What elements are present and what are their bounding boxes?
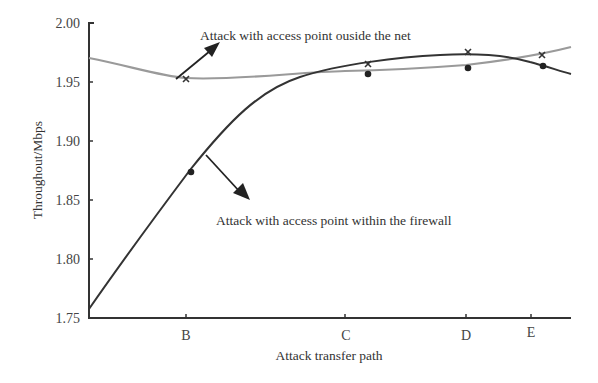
arrow-icon-bottom bbox=[206, 155, 250, 200]
marker-dot-C bbox=[365, 71, 372, 78]
series-outside-net-line bbox=[89, 47, 571, 79]
series-within-firewall-line bbox=[89, 54, 571, 309]
y-tick-1.90: 1.90 bbox=[56, 134, 81, 149]
x-tick-C: C bbox=[341, 328, 350, 343]
y-tick-1.95: 1.95 bbox=[56, 75, 81, 90]
y-axis-title: Throughout/Mbps bbox=[30, 121, 45, 219]
y-axis bbox=[89, 22, 94, 318]
throughput-chart: 2.00 1.95 1.90 1.85 1.80 1.75 B C D E At… bbox=[0, 0, 598, 383]
x-axis bbox=[88, 314, 571, 318]
y-tick-2.00: 2.00 bbox=[56, 16, 81, 31]
y-tick-1.75: 1.75 bbox=[56, 311, 81, 326]
x-tick-D: D bbox=[461, 328, 471, 343]
y-tick-1.85: 1.85 bbox=[56, 193, 81, 208]
x-tick-B: B bbox=[181, 328, 190, 343]
marker-dot-E bbox=[540, 63, 547, 70]
x-tick-E: E bbox=[527, 325, 536, 340]
marker-dot-D bbox=[465, 65, 472, 72]
x-axis-title: Attack transfer path bbox=[275, 348, 382, 363]
marker-dot-B bbox=[188, 169, 195, 176]
annotation-within-firewall: Attack with access point within the fire… bbox=[216, 213, 452, 228]
arrow-icon-top bbox=[176, 42, 220, 79]
annotation-outside-net: Attack with access point ouside the net bbox=[200, 28, 411, 43]
y-tick-1.80: 1.80 bbox=[56, 252, 81, 267]
